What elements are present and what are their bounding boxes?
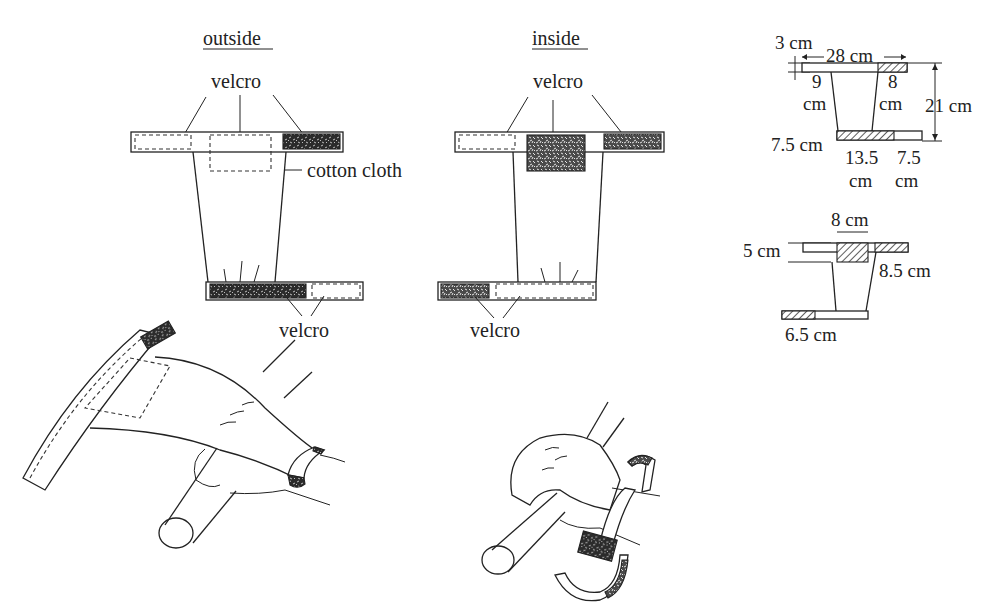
inside-velcro-top-label: velcro [533, 70, 583, 92]
finger-outline [194, 449, 220, 487]
inside-cuff-right-edge [596, 152, 603, 282]
lower-right-velcro-hatch [875, 243, 908, 252]
bar-edge [284, 372, 312, 398]
dim-bottom-left-len: 13.5 [845, 147, 878, 168]
upper-bottom-velcro-hatch [837, 131, 894, 140]
dim-strap-width: 3 cm [775, 32, 813, 53]
lower-bottom-velcro-hatch [782, 311, 815, 319]
bar-edge [587, 402, 608, 438]
dim-strap-height: 5 cm [743, 240, 781, 261]
outside-velcro-top-label: velcro [211, 70, 261, 92]
glove-open-strap [23, 330, 160, 490]
dim-top-right-offset: 8 [888, 71, 898, 92]
upper-trapezoid-right [872, 72, 878, 131]
leader-line [273, 95, 304, 135]
outside-cuff-right-edge [275, 152, 286, 282]
inside-bottom-velcro-patch [441, 284, 489, 298]
inside-velcro-right-patch [604, 134, 661, 149]
illustration-glove-wrapped [482, 402, 660, 601]
bar-end-circle [159, 518, 193, 548]
dim-bottom-left-unit: cm [849, 170, 872, 191]
outside-bottom-velcro-patch [210, 284, 306, 298]
cotton-cloth-label: cotton cloth [307, 159, 402, 181]
outside-panel: outside velcro cotton cloth velcro [131, 27, 402, 341]
inside-velcro-bottom-label: velcro [470, 319, 520, 341]
outside-cuff-left-edge [193, 152, 208, 282]
bar-edge [263, 340, 295, 372]
dim-patch-width: 8 cm [831, 209, 869, 230]
dimension-drawing-upper: 3 cm 28 cm 9 cm 8 cm 21 cm 7.5 cm 13.5 c… [771, 32, 972, 191]
bar-end-circle [482, 546, 514, 574]
dim-height: 21 cm [925, 95, 972, 116]
dim-top-left-unit: cm [803, 93, 826, 114]
wrapped-strap-lower [555, 555, 628, 601]
outside-title: outside [203, 27, 261, 49]
lower-center-velcro-hatch [837, 243, 868, 262]
hand-outline [230, 490, 330, 505]
dim-bottom-strap-width: 7.5 cm [771, 134, 823, 155]
illustration-glove-open [23, 321, 345, 548]
wrist-outline [320, 455, 345, 462]
dim-right-velcro: 8.5 cm [879, 260, 931, 281]
inside-cuff-left-edge [513, 152, 518, 282]
dim-top-left-offset: 9 [812, 71, 822, 92]
inside-velcro-center-patch [527, 135, 585, 171]
gather-line [224, 269, 226, 282]
lower-trapezoid-left [832, 262, 836, 311]
strap-velcro-tip [141, 321, 176, 349]
bar-edge [508, 512, 565, 572]
dim-top-right-unit: cm [879, 93, 902, 114]
inside-panel: inside velcro velcro [438, 27, 664, 341]
leader-line [592, 95, 625, 137]
wrapped-strap-curl-velcro [628, 456, 652, 466]
inside-title: inside [532, 27, 580, 49]
leader-line [287, 298, 302, 316]
gather-line [240, 261, 242, 282]
gather-line [541, 268, 545, 282]
upper-trapezoid-left [831, 72, 838, 131]
outside-velcro-bottom-label: velcro [279, 319, 329, 341]
gather-line [254, 265, 259, 282]
fabric-folds [220, 402, 254, 425]
bar-edge [603, 418, 624, 447]
dim-bottom-velcro: 6.5 cm [785, 324, 837, 345]
dimension-drawing-lower: 8 cm 5 cm 8.5 cm 6.5 cm [743, 209, 931, 345]
outside-velcro-right-patch [283, 134, 340, 149]
glove-pattern-diagram: outside velcro cotton cloth velcro insid… [0, 0, 984, 611]
bar-edge [193, 491, 236, 543]
dim-bottom-right-len: 7.5 [897, 147, 921, 168]
gather-line [572, 270, 578, 282]
dim-bottom-right-unit: cm [895, 170, 918, 191]
